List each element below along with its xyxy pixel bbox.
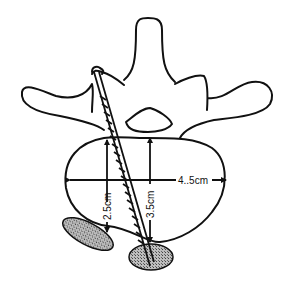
- right-depth-label: 3.5cm: [145, 191, 156, 218]
- diagram-canvas: 4..5cm 2.5cm 3.5cm: [0, 0, 287, 284]
- vertebra-diagram: 4..5cm 2.5cm 3.5cm: [0, 0, 287, 284]
- hatched-structure-right: [129, 244, 173, 270]
- spinous-process: [124, 18, 175, 82]
- width-label: 4..5cm: [178, 175, 208, 186]
- spinal-canal: [126, 108, 172, 132]
- left-depth-label: 2.5cm: [102, 193, 113, 220]
- transverse-process-right: [175, 76, 272, 138]
- posterior-elements: [22, 18, 272, 138]
